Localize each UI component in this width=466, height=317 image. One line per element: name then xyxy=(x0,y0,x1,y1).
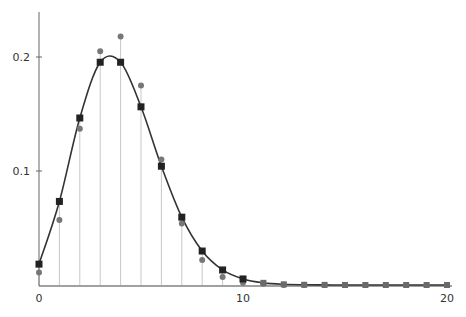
observed-point xyxy=(118,33,124,39)
observed-point xyxy=(77,126,83,132)
model-point xyxy=(76,114,83,121)
observed-point xyxy=(220,274,226,280)
model-point xyxy=(56,198,63,205)
observed-points xyxy=(36,33,450,288)
model-point xyxy=(301,282,307,288)
observed-point xyxy=(97,48,103,54)
x-tick-label: 0 xyxy=(36,292,43,305)
observed-point xyxy=(56,217,62,223)
model-point xyxy=(178,214,185,221)
tick-labels: 0.10.201020 xyxy=(13,51,455,305)
observed-point xyxy=(179,220,185,226)
model-points xyxy=(36,59,451,288)
model-point xyxy=(117,59,124,66)
observed-point xyxy=(199,257,205,263)
model-point xyxy=(383,282,389,288)
y-tick-label: 0.2 xyxy=(13,51,31,64)
model-point xyxy=(444,282,450,288)
model-point xyxy=(138,103,145,110)
model-point xyxy=(36,261,43,268)
chart: 0.10.201020 xyxy=(0,0,466,317)
model-point xyxy=(260,280,266,286)
model-point xyxy=(322,282,328,288)
model-point xyxy=(199,248,206,255)
observed-point xyxy=(36,269,42,275)
model-point xyxy=(403,282,409,288)
model-point xyxy=(240,275,247,282)
observed-point xyxy=(158,157,164,163)
y-tick-label: 0.1 xyxy=(13,165,31,178)
x-tick-label: 20 xyxy=(440,292,454,305)
observed-point xyxy=(138,83,144,89)
model-point xyxy=(342,282,348,288)
model-point xyxy=(362,282,368,288)
x-tick-label: 10 xyxy=(236,292,250,305)
model-point xyxy=(158,163,165,170)
model-point xyxy=(219,266,226,273)
model-point xyxy=(97,59,104,66)
model-point xyxy=(281,281,287,287)
model-point xyxy=(424,282,430,288)
